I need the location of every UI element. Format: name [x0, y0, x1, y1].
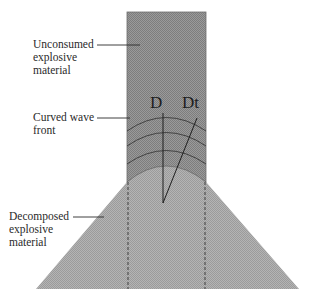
label-decomposed-explosive: Decomposed explosive material [9, 210, 69, 249]
detonation-diagram: Unconsumed explosive material Curved wav… [0, 0, 309, 300]
label-unconsumed-explosive: Unconsumed explosive material [33, 38, 94, 77]
symbol-dt: Dt [182, 94, 199, 111]
label-curved-wave-front: Curved wave front [33, 111, 94, 137]
symbol-d: D [150, 94, 162, 111]
decomposed-explosive-region [36, 166, 299, 289]
